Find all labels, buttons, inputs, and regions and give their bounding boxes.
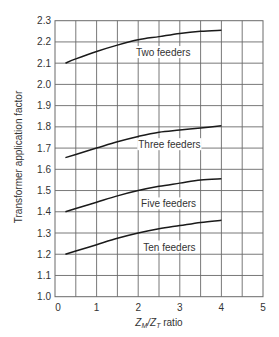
x-tick-label: 2 xyxy=(135,302,141,313)
x-label-ratio: ratio xyxy=(160,317,183,328)
y-tick-label: 2.3 xyxy=(37,15,51,26)
y-tick-label: 1.7 xyxy=(37,143,51,154)
y-tick-label: 1.0 xyxy=(37,291,51,302)
y-tick-label: 1.8 xyxy=(37,121,51,132)
label-five-feeders-text: Five feeders xyxy=(141,198,196,209)
label-ten-feeders-text: Ten feeders xyxy=(143,242,195,253)
y-tick-label: 1.3 xyxy=(37,228,51,239)
label-three-feeders-text: Three feeders xyxy=(138,139,200,150)
x-axis-label: ZM/ZT ratio xyxy=(134,317,183,329)
y-tick-label: 1.5 xyxy=(37,185,51,196)
y-tick-label: 1.9 xyxy=(37,100,51,111)
label-five-feeders: Five feeders xyxy=(140,197,197,209)
label-ten-feeders: Ten feeders xyxy=(142,241,196,253)
grid xyxy=(55,21,263,297)
y-tick-label: 2.1 xyxy=(37,58,51,69)
x-tick-label: 4 xyxy=(219,302,225,313)
x-tick-label: 0 xyxy=(55,302,61,313)
y-tick-label: 1.1 xyxy=(37,270,51,281)
label-two-feeders: Two feeders xyxy=(135,46,191,58)
label-three-feeders: Three feeders xyxy=(137,138,201,150)
x-tick-label: 5 xyxy=(260,302,266,313)
x-tick-label: 1 xyxy=(94,302,100,313)
x-tick-label: 3 xyxy=(177,302,183,313)
label-two-feeders-text: Two feeders xyxy=(136,47,190,58)
curve-labels: Two feedersThree feedersFive feedersTen … xyxy=(135,46,202,252)
y-tick-label: 1.6 xyxy=(37,164,51,175)
x-tick-labels: 012345 xyxy=(55,302,266,313)
y-tick-label: 2.2 xyxy=(37,36,51,47)
y-axis-label: Transformer application factor xyxy=(13,90,24,223)
y-tick-labels: 1.01.11.21.31.41.51.61.71.81.92.02.12.22… xyxy=(37,15,51,302)
y-tick-label: 1.2 xyxy=(37,249,51,260)
y-tick-label: 1.4 xyxy=(37,206,51,217)
chart: Two feedersThree feedersFive feedersTen … xyxy=(0,0,279,337)
y-tick-label: 2.0 xyxy=(37,79,51,90)
